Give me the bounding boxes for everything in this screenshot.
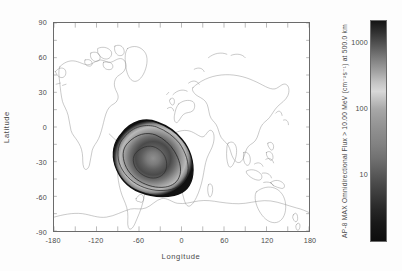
x-tick-m120: -120 [76, 236, 116, 245]
colorbar-title: AP-8 MAX Omnidirectional Flux > 10.00 Me… [341, 24, 349, 238]
saa-flux-region [113, 120, 193, 196]
y-tick-0: 0 [19, 123, 47, 132]
y-tick-m30: -30 [19, 158, 47, 167]
y-tick-m60: -60 [19, 193, 47, 202]
figure-canvas: 90 60 30 0 -30 -60 -90 Latitude -180 -12… [0, 0, 402, 271]
x-tick-180: 180 [290, 236, 330, 245]
y-axis-title: Latitude [2, 111, 11, 143]
colorbar [370, 20, 387, 242]
world-map-svg [54, 23, 309, 231]
x-tick-0: 0 [162, 236, 202, 245]
x-tick-m180: -180 [33, 236, 73, 245]
colorbar-gradient [371, 21, 386, 241]
x-tick-m60: -60 [119, 236, 159, 245]
y-tick-60: 60 [19, 53, 47, 62]
x-axis-title: Longitude [162, 252, 201, 261]
x-tick-120: 120 [247, 236, 287, 245]
axis-tick-marks [54, 23, 309, 231]
map-plot-area [53, 22, 310, 232]
y-tick-90: 90 [19, 18, 47, 27]
x-tick-60: 60 [204, 236, 244, 245]
y-tick-30: 30 [19, 88, 47, 97]
